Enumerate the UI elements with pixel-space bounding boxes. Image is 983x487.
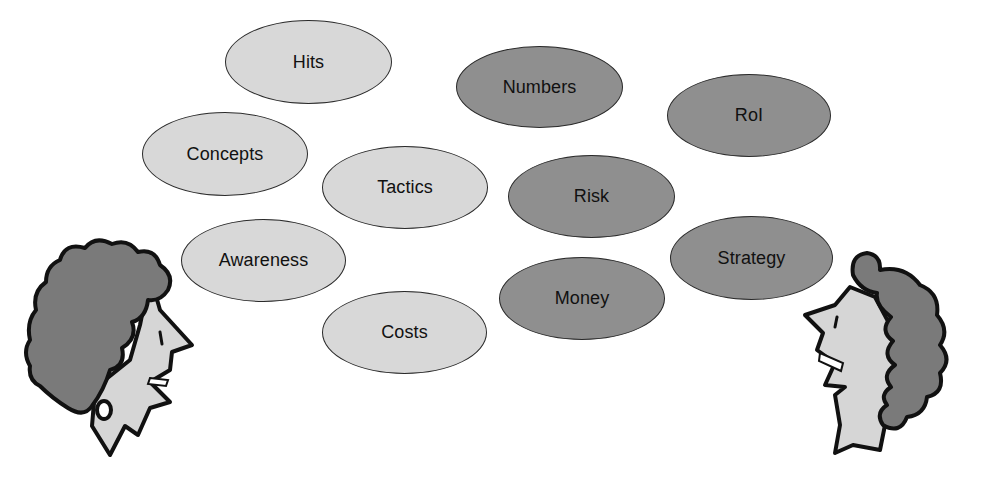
bubble-tactics: Tactics <box>322 146 488 229</box>
right-person-icon <box>795 245 965 470</box>
bubble-costs: Costs <box>322 291 487 374</box>
bubble-label: Money <box>555 288 610 309</box>
bubble-label: Concepts <box>187 144 264 165</box>
bubble-concepts: Concepts <box>142 112 308 196</box>
bubble-label: Numbers <box>503 77 577 98</box>
bubble-numbers: Numbers <box>456 46 623 128</box>
diagram-canvas: Hits Concepts Tactics Awareness Costs Nu… <box>0 0 983 487</box>
bubble-label: Awareness <box>219 250 309 271</box>
bubble-money: Money <box>499 257 665 340</box>
bubble-risk: Risk <box>508 155 675 238</box>
bubble-label: Strategy <box>718 248 786 269</box>
bubble-label: Costs <box>381 322 428 343</box>
bubble-label: RoI <box>735 105 763 126</box>
bubble-hits: Hits <box>225 20 392 104</box>
bubble-label: Tactics <box>377 177 433 198</box>
bubble-roi: RoI <box>667 74 831 157</box>
bubble-label: Hits <box>293 52 324 73</box>
bubble-label: Risk <box>574 186 609 207</box>
earring-icon <box>97 401 111 419</box>
left-person-icon <box>0 230 210 470</box>
